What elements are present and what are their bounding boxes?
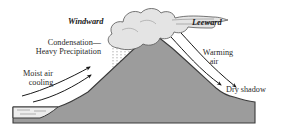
label-moist-air: Moist air [23, 69, 53, 78]
label-air: air [210, 57, 219, 66]
label-dry-shadow: Dry shadow [226, 85, 266, 94]
label-leeward: Leeward [191, 18, 223, 27]
label-warming: Warming [203, 48, 233, 57]
label-cooling: cooling [29, 78, 54, 87]
cloud [108, 9, 228, 50]
label-windward: Windward [68, 17, 104, 26]
label-condensation: Condensation— [48, 38, 102, 47]
label-heavy-precipitation: Heavy Precipitation [36, 47, 101, 56]
rain-shadow-diagram: Windward Leeward Condensation— Heavy Pre… [0, 0, 282, 135]
